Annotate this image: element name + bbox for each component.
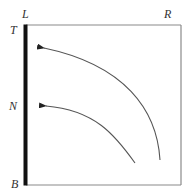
label-N: N — [9, 100, 17, 112]
diagram-canvas — [0, 0, 194, 195]
label-T: T — [10, 24, 17, 36]
upper-curved-arrow — [44, 48, 160, 160]
label-L: L — [22, 8, 29, 20]
label-R: R — [164, 8, 171, 20]
lower-curved-arrow — [46, 106, 135, 163]
label-B: B — [11, 178, 18, 190]
left-thick-edge — [24, 25, 28, 186]
